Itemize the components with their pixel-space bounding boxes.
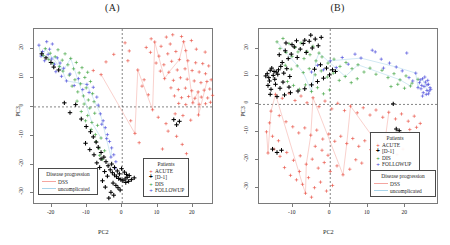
data-point-d-1	[52, 65, 56, 69]
data-point-d-1	[271, 73, 275, 77]
data-point-followup	[427, 83, 430, 86]
data-point-followup	[95, 95, 98, 98]
data-point-d-1	[269, 87, 273, 91]
data-point-followup	[45, 40, 48, 43]
data-point-d-1	[307, 39, 311, 43]
data-point-acute	[204, 102, 207, 105]
data-point-dis	[89, 80, 92, 83]
legend-label-dss: DSS	[58, 179, 68, 185]
data-point-dis	[281, 37, 284, 40]
legend-item-followup: + FOLLOWUP	[147, 187, 185, 193]
data-point-acute	[419, 122, 422, 125]
data-point-acute	[154, 61, 157, 64]
data-point-acute	[330, 107, 333, 110]
y-tick-label: 10	[18, 68, 24, 84]
data-point-acute	[363, 139, 366, 142]
data-point-acute	[331, 184, 334, 187]
data-point-acute	[303, 126, 306, 129]
data-point-dis	[350, 81, 353, 84]
y-tick-mark	[30, 192, 33, 193]
data-point-acute	[112, 53, 115, 56]
data-point-acute	[197, 70, 200, 73]
data-point-acute	[348, 168, 351, 171]
x-tick-label: -10	[75, 209, 97, 215]
legend-key-followup: +	[147, 187, 155, 193]
data-point-acute	[159, 69, 162, 72]
data-point-acute	[266, 151, 269, 154]
y-tick-mark	[255, 159, 258, 160]
data-point-acute	[311, 157, 314, 160]
data-point-dis	[77, 71, 80, 74]
data-point-d-1	[292, 45, 296, 49]
data-point-d-1	[88, 130, 92, 134]
trajectory-line-dss	[101, 42, 207, 134]
panel-a: (A) PC3 PC2 -20-100102020100-10-20-30 Di…	[0, 0, 225, 245]
data-point-acute	[199, 81, 202, 84]
data-point-acute	[299, 154, 302, 157]
x-tick-label: 20	[393, 209, 415, 215]
data-point-acute	[195, 47, 198, 50]
data-point-dis	[286, 80, 289, 83]
data-point-followup	[51, 42, 54, 45]
data-point-followup	[414, 71, 417, 74]
data-point-d-1	[313, 37, 317, 41]
data-point-acute	[203, 50, 206, 53]
data-point-followup	[401, 69, 404, 72]
data-point-acute	[211, 94, 214, 97]
data-point-acute	[374, 108, 377, 111]
data-point-acute	[159, 45, 162, 48]
data-point-acute	[201, 62, 204, 65]
data-point-dis	[61, 58, 64, 61]
data-point-acute	[196, 90, 199, 93]
data-point-followup	[109, 155, 112, 158]
data-point-dis	[69, 57, 72, 60]
data-point-acute	[362, 106, 365, 109]
data-point-d-1	[315, 79, 319, 83]
y-tick-mark	[30, 48, 33, 49]
legend-label-followup: FOLLOWUP	[155, 187, 184, 193]
data-point-dis	[320, 55, 323, 58]
x-tick-label: 10	[356, 209, 378, 215]
x-tick-label: -20	[40, 209, 62, 215]
data-point-d-1	[102, 169, 106, 173]
data-point-dis	[304, 83, 307, 86]
data-point-d-1	[115, 169, 119, 173]
data-point-d-1	[96, 145, 100, 149]
data-point-acute	[133, 132, 136, 135]
data-point-followup	[425, 93, 428, 96]
data-point-d-1	[73, 102, 77, 106]
data-point-acute	[185, 152, 188, 155]
data-point-acute	[209, 78, 212, 81]
data-point-acute	[153, 40, 156, 43]
data-point-acute	[181, 114, 184, 117]
data-point-acute	[157, 116, 160, 119]
data-point-acute	[123, 41, 126, 44]
data-point-acute	[415, 126, 418, 129]
data-point-acute	[319, 180, 322, 183]
data-point-acute	[351, 137, 354, 140]
data-point-dis	[90, 121, 93, 124]
legend-title-patients: Patients	[147, 161, 185, 167]
data-point-acute	[171, 33, 174, 36]
data-point-d-1	[91, 135, 95, 139]
data-point-acute	[177, 88, 180, 91]
data-point-acute	[169, 42, 172, 45]
data-point-dis	[47, 58, 50, 61]
data-point-d-1	[174, 123, 178, 127]
data-point-d-1	[94, 140, 98, 144]
legend-line-dss	[374, 183, 388, 184]
data-point-acute	[151, 108, 154, 111]
data-point-d-1	[281, 80, 285, 84]
data-point-acute	[313, 186, 316, 189]
data-point-dis	[73, 78, 76, 81]
data-point-acute	[293, 99, 296, 102]
data-point-acute	[157, 54, 160, 57]
data-point-followup	[73, 84, 76, 87]
data-point-d-1	[273, 82, 277, 86]
data-point-dis	[82, 94, 85, 97]
data-point-dis	[83, 76, 86, 79]
data-point-d-1	[280, 60, 284, 64]
data-point-followup	[411, 79, 414, 82]
data-point-acute	[271, 135, 274, 138]
data-point-acute	[172, 79, 175, 82]
